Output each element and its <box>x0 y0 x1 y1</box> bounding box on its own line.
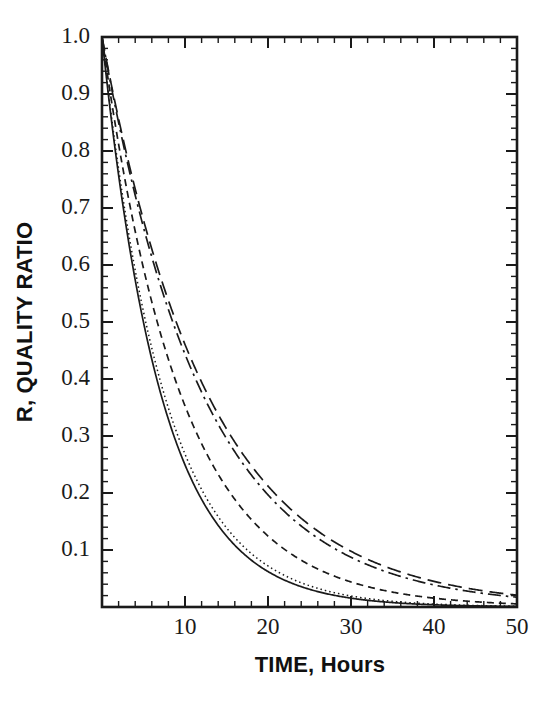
x-tick-label-50: 50 <box>506 614 529 639</box>
y-axis-title: R, QUALITY RATIO <box>12 222 37 422</box>
y-tick-label-1.0: 1.0 <box>61 23 90 48</box>
x-tick-label-30: 30 <box>340 614 363 639</box>
y-tick-label-0.8: 0.8 <box>61 137 90 162</box>
y-tick-label-0.9: 0.9 <box>61 80 90 105</box>
y-tick-label-0.6: 0.6 <box>61 251 90 276</box>
y-tick-label-0.3: 0.3 <box>61 422 90 447</box>
y-tick-label-0.7: 0.7 <box>61 194 90 219</box>
figure-container: 1.00.90.80.70.60.50.40.30.20.1 102030405… <box>0 0 548 707</box>
x-tick-label-40: 40 <box>423 614 446 639</box>
x-tick-label-10: 10 <box>174 614 197 639</box>
quality-ratio-decay-chart: 1.00.90.80.70.60.50.40.30.20.1 102030405… <box>0 0 548 707</box>
y-tick-label-0.2: 0.2 <box>61 479 90 504</box>
y-tick-label-0.4: 0.4 <box>61 365 90 390</box>
y-tick-label-0.5: 0.5 <box>61 308 90 333</box>
x-axis-title: TIME, Hours <box>255 652 386 677</box>
x-tick-label-20: 20 <box>257 614 280 639</box>
y-tick-label-0.1: 0.1 <box>61 536 90 561</box>
